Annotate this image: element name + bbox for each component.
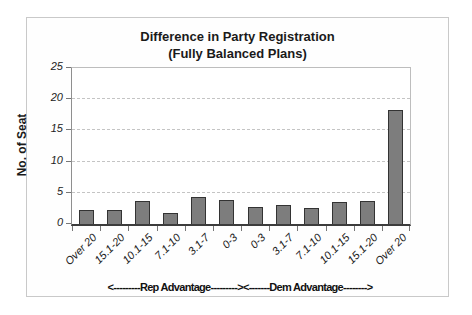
plot-area [71, 67, 411, 226]
bar [79, 210, 94, 224]
x-tick-mark [100, 226, 101, 231]
chart-title-line2: (Fully Balanced Plans) [27, 45, 448, 62]
y-tick-mark [66, 67, 71, 68]
x-tick-mark [354, 226, 355, 231]
y-tick-label: 20 [27, 91, 63, 103]
x-tick-mark [409, 226, 410, 231]
gridline [72, 192, 410, 193]
y-tick-mark [66, 98, 71, 99]
bar [135, 201, 150, 224]
bar [163, 213, 178, 224]
x-tick-mark [157, 226, 158, 231]
x-tick-label-text: 0-3 [220, 231, 240, 251]
y-tick-label: 25 [27, 60, 63, 72]
x-tick-mark [297, 226, 298, 231]
y-tick-mark [66, 129, 71, 130]
bar [360, 201, 375, 224]
x-tick-mark [326, 226, 327, 231]
bar [332, 202, 347, 224]
x-tick-mark [128, 226, 129, 231]
bar [219, 200, 234, 224]
chart-title-line1: Difference in Party Registration [27, 28, 448, 45]
y-tick-label: 0 [27, 216, 63, 228]
gridline [72, 161, 410, 162]
x-tick-label-text: Over 20 [62, 231, 98, 267]
x-tick-mark [269, 226, 270, 231]
x-tick-label-text: 0-3 [248, 231, 268, 251]
x-tick-mark [72, 226, 73, 231]
x-tick-mark [382, 226, 383, 231]
bar [248, 207, 263, 224]
x-tick-mark [185, 226, 186, 231]
rep-advantage-label: <---------Rep Advantage---------> [108, 281, 243, 293]
x-axis-group-annotation: <---------Rep Advantage---------><------… [71, 281, 409, 293]
bar [191, 197, 206, 224]
chart-frame: Difference in Party Registration (Fully … [26, 17, 449, 297]
bar [276, 205, 291, 224]
y-tick-mark [66, 161, 71, 162]
x-tick-label-text: 10.1-15 [317, 231, 352, 266]
y-tick-mark [66, 192, 71, 193]
y-tick-label: 5 [27, 185, 63, 197]
x-tick-label-text: 7.1-10 [153, 231, 184, 262]
bar [107, 210, 122, 224]
x-tick-label-text: 10.1-15 [120, 231, 155, 266]
chart-title: Difference in Party Registration (Fully … [27, 28, 448, 62]
y-tick-label: 10 [27, 154, 63, 166]
bar [388, 110, 403, 224]
x-tick-label-text: 15.1-20 [92, 231, 127, 266]
bar [304, 208, 319, 224]
gridline [72, 129, 410, 130]
x-tick-label-text: 3.1-7 [185, 231, 211, 257]
x-tick-mark [213, 226, 214, 231]
y-tick-label: 15 [27, 122, 63, 134]
y-tick-mark [66, 223, 71, 224]
gridline [72, 98, 410, 99]
dem-advantage-label: <-------Dem Advantage--------> [243, 281, 373, 293]
x-tick-label-text: 3.1-7 [270, 231, 296, 257]
x-tick-mark [241, 226, 242, 231]
